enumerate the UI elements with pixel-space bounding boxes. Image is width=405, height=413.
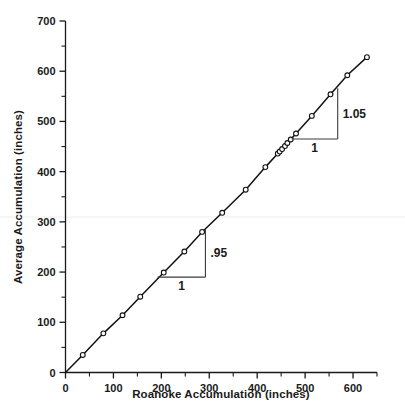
y-axis-tick-labels: 0100200300400500600700 [37, 15, 55, 379]
slope-annotations: 1.9511.05 [158, 88, 367, 293]
data-line-path [66, 57, 367, 372]
y-axis-ticks [60, 21, 66, 373]
y-tick-label: 700 [37, 15, 55, 27]
y-tick-label: 100 [37, 316, 55, 328]
x-tick-label: 600 [344, 382, 362, 394]
data-point-marker [200, 230, 205, 235]
data-point-marker [120, 313, 125, 318]
data-point-marker [138, 294, 143, 299]
y-tick-label: 600 [37, 65, 55, 77]
data-point-marker [80, 353, 85, 358]
y-axis-title: Average Accumulation (inches) [12, 110, 24, 284]
data-point-marker [328, 92, 333, 97]
y-tick-label: 300 [37, 216, 55, 228]
x-tick-label: 100 [104, 382, 122, 394]
x-tick-label: 0 [62, 382, 68, 394]
data-point-marker [294, 131, 299, 136]
data-point-marker [263, 165, 268, 170]
data-point-marker [365, 55, 370, 60]
x-axis-ticks [66, 373, 378, 379]
data-point-marker [101, 331, 106, 336]
y-tick-label: 500 [37, 115, 55, 127]
y-tick-label: 400 [37, 166, 55, 178]
data-point-marker [161, 270, 166, 275]
y-tick-label: 200 [37, 266, 55, 278]
upper-slope-triangle-run-label: 1 [311, 141, 318, 155]
lower-slope-triangle-rise-label: .95 [210, 246, 227, 260]
data-point-marker [220, 210, 225, 215]
double-mass-curve-figure: 0100200300400500600700 01002003004005006… [0, 0, 405, 413]
data-point-marker [182, 249, 187, 254]
data-series-group [66, 55, 370, 373]
upper-slope-triangle-rise-label: 1.05 [343, 107, 367, 121]
lower-slope-triangle-run-label: 1 [178, 279, 185, 293]
chart-canvas: 0100200300400500600700 01002003004005006… [0, 0, 405, 413]
x-axis-title: Roanoke Accumulation (inches) [132, 388, 310, 400]
data-point-marker [345, 73, 350, 78]
axes-group [65, 21, 377, 373]
y-tick-label: 0 [49, 367, 55, 379]
data-point-marker [309, 114, 314, 119]
data-point-marker [243, 187, 248, 192]
